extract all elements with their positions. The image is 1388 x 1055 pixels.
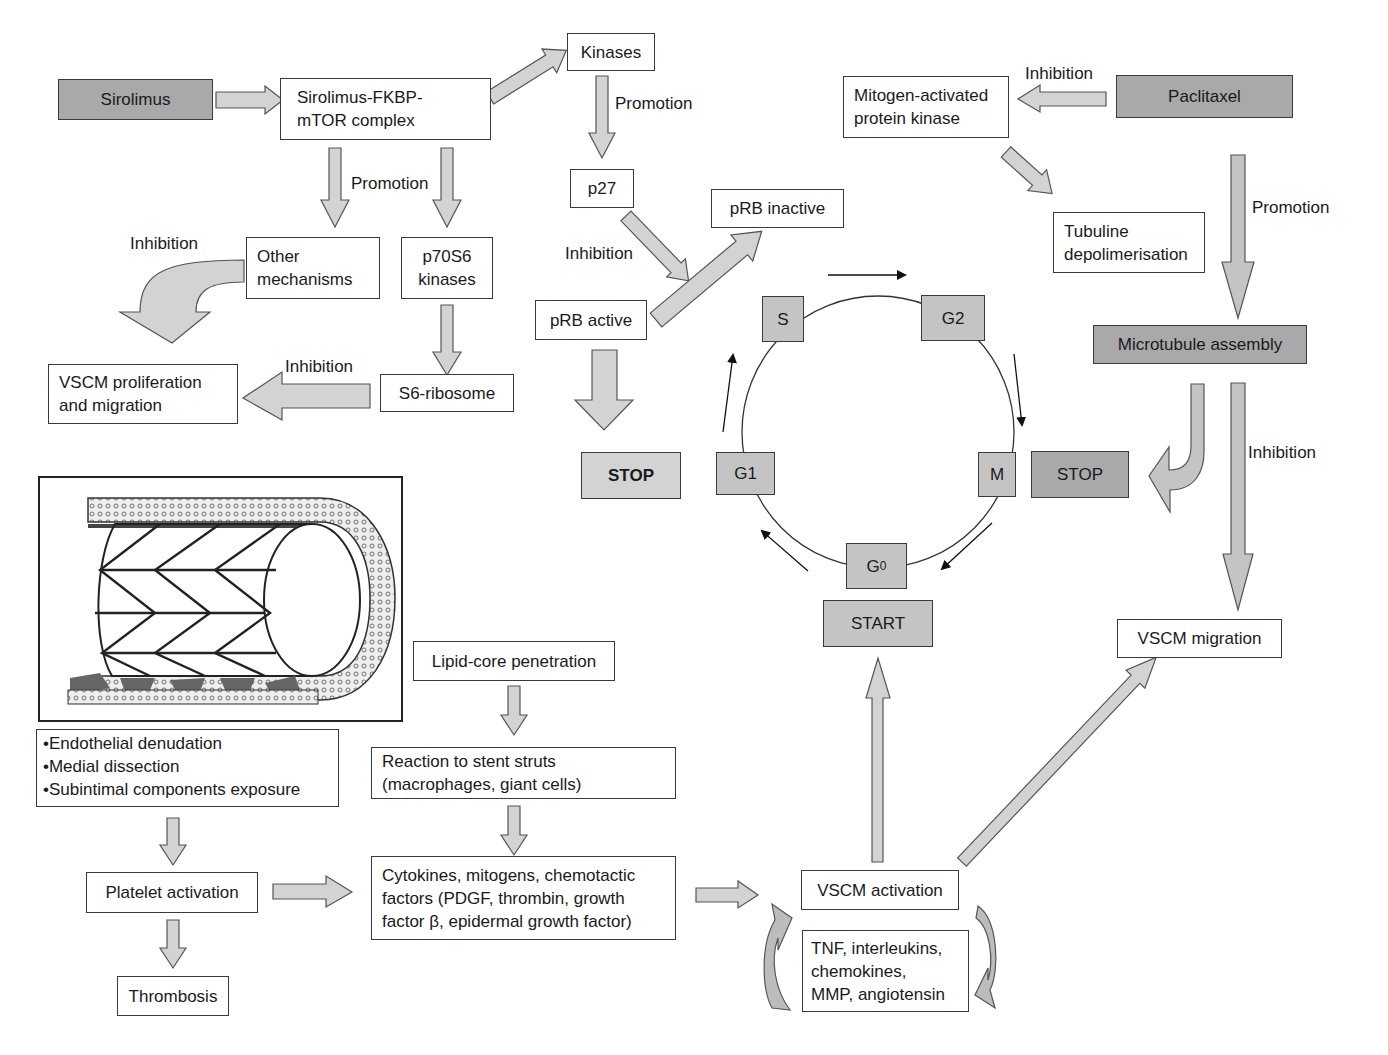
phase-g2-box: G2: [921, 295, 985, 341]
tubuline-depolimerisation-box: Tubuline depolimerisation: [1053, 212, 1205, 273]
phase-m-box: M: [978, 452, 1016, 497]
paclitaxel-box: Paclitaxel: [1116, 75, 1293, 118]
thrombosis-box: Thrombosis: [117, 976, 229, 1016]
other-mechanisms-box: Other mechanisms: [246, 237, 380, 299]
arrow-prb-active-to-inactive: [645, 218, 773, 333]
arrow-complex-to-kinases: [483, 38, 574, 109]
platelet-activation-box: Platelet activation: [86, 872, 258, 913]
phase-g0-subscript: 0: [880, 555, 887, 578]
arrow-p70-to-s6: [433, 305, 461, 375]
cycle-arrow-g2-to-m: [1014, 354, 1022, 425]
stop-box-left: STOP: [581, 452, 681, 499]
arrow-bullets-to-platelet: [160, 818, 186, 865]
arrow-complex-to-other: [321, 148, 349, 227]
arrow-feedback-left: [764, 904, 792, 1010]
sirolimus-box: Sirolimus: [58, 79, 213, 120]
tnf-interleukins-box: TNF, interleukins, chemokines, MMP, angi…: [802, 930, 969, 1012]
start-box: START: [823, 600, 933, 647]
arrow-sirolimus-to-complex: [216, 86, 283, 114]
vscm-activation-box: VSCM activation: [801, 870, 959, 910]
phase-g1-box: G1: [716, 452, 775, 495]
arrow-microtubule-to-migration: [1223, 383, 1253, 610]
prb-active-box: pRB active: [535, 300, 647, 340]
reaction-to-stent-struts-box: Reaction to stent struts (macrophages, g…: [371, 747, 676, 799]
stent-vessel-icon: [40, 478, 401, 720]
arrow-platelet-to-cytokines: [273, 876, 352, 907]
cycle-arrow-g0-to-g1: [762, 531, 808, 571]
arrow-mapk-to-tubuline: [997, 142, 1062, 204]
arrow-platelet-to-thrombosis: [160, 920, 186, 968]
inhibition-label-s6: Inhibition: [285, 357, 353, 377]
prb-inactive-box: pRB inactive: [711, 189, 844, 228]
arrow-paclitaxel-to-mapk: [1018, 85, 1106, 112]
cycle-arrow-m-to-g0: [942, 523, 992, 569]
vscm-migration-box: VSCM migration: [1117, 619, 1282, 658]
phase-g0-label: G: [867, 555, 880, 578]
arrow-microtubule-curved-stop: [1149, 384, 1204, 512]
inhibition-label-p27: Inhibition: [565, 244, 633, 264]
vscm-proliferation-box: VSCM proliferation and migration: [48, 364, 238, 424]
s6-ribosome-box: S6-ribosome: [380, 374, 514, 412]
phase-s-box: S: [762, 296, 804, 342]
arrow-vscm-to-migration: [953, 648, 1166, 870]
inhibition-label-other: Inhibition: [130, 234, 198, 254]
microtubule-assembly-box: Microtubule assembly: [1093, 325, 1307, 364]
p27-box: p27: [570, 169, 634, 208]
stop-box-right: STOP: [1031, 451, 1129, 498]
mapk-box: Mitogen-activated protein kinase: [843, 76, 1009, 138]
promotion-label-branch: Promotion: [351, 174, 428, 194]
sirolimus-fkbp-mtor-complex-box: Sirolimus-FKBP- mTOR complex: [280, 78, 491, 140]
arrow-complex-to-p70: [433, 148, 461, 227]
arrow-cytokines-to-vscm: [696, 881, 758, 908]
bullet-item: Medial dissection: [43, 755, 332, 778]
inhibition-label-mapk: Inhibition: [1025, 64, 1093, 84]
bullet-item: Subintimal components exposure: [43, 778, 332, 801]
inhibition-label-migration: Inhibition: [1248, 443, 1316, 463]
cycle-arrow-g1-to-s: [723, 355, 733, 432]
promotion-label-microtubule: Promotion: [1252, 198, 1329, 218]
injury-bullet-list: Endothelial denudation Medial dissection…: [36, 729, 339, 807]
cytokines-box: Cytokines, mitogens, chemotactic factors…: [371, 856, 676, 940]
arrow-vscm-to-start: [866, 658, 890, 862]
arrow-reaction-to-cytokines: [501, 806, 527, 855]
kinases-box: Kinases: [567, 33, 655, 71]
stent-illustration: [38, 476, 403, 722]
p70s6-kinases-box: p70S6 kinases: [401, 237, 493, 299]
arrow-other-curved: [120, 260, 244, 343]
arrow-s6-to-vscm: [243, 372, 370, 420]
arrow-kinases-to-p27: [589, 76, 615, 158]
lipid-core-penetration-box: Lipid-core penetration: [413, 641, 615, 681]
arrow-feedback-right: [975, 906, 996, 1008]
diagram-canvas: Sirolimus Sirolimus-FKBP- mTOR complex K…: [0, 0, 1388, 1055]
phase-g0-box: G0: [846, 543, 907, 589]
arrow-lipid-to-reaction: [501, 686, 527, 735]
arrow-paclitaxel-to-microtubule: [1222, 155, 1254, 318]
arrow-prb-to-stop: [575, 350, 633, 430]
bullet-item: Endothelial denudation: [43, 732, 332, 755]
promotion-label-kinases: Promotion: [615, 94, 692, 114]
